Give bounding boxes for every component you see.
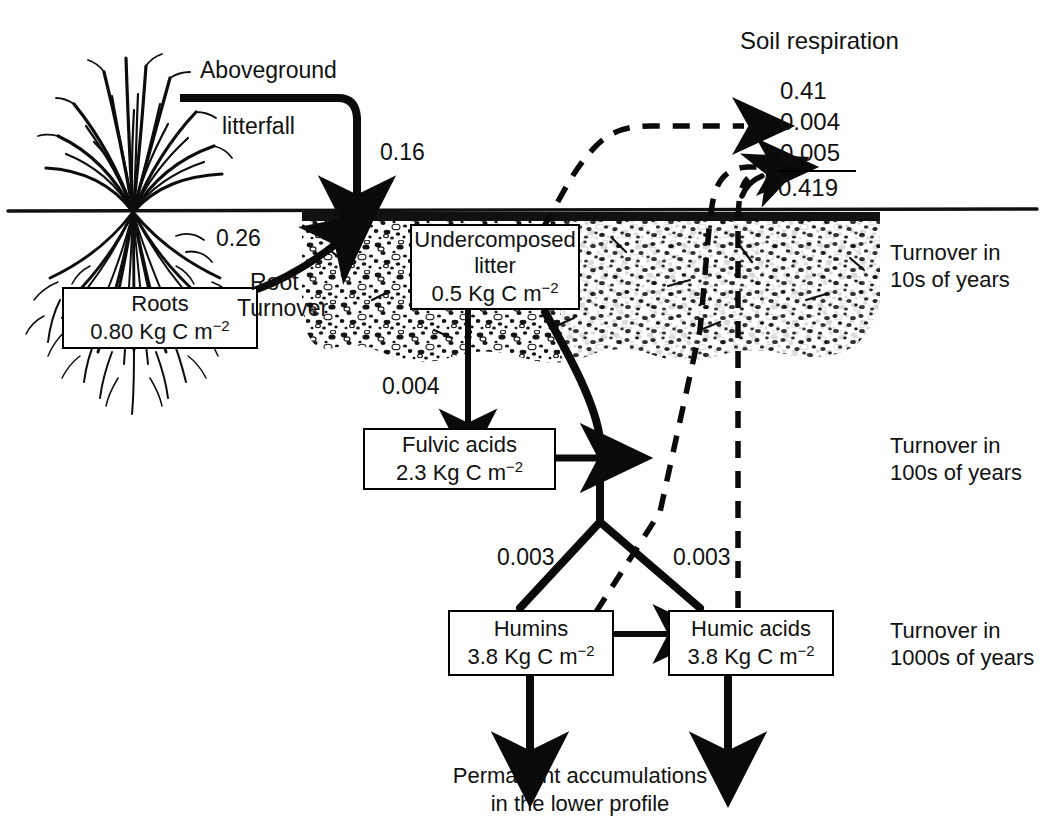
litter-to-fulvic-value: 0.004 [382, 372, 440, 400]
turnover-note-1-line2: 100s of years [890, 460, 1022, 487]
turnover-note-0-line1: Turnover in [890, 240, 1000, 267]
fork-to-humic-acids-value: 0.003 [673, 543, 731, 571]
flow-arrows-layer [0, 0, 1045, 830]
pool-box-humins[interactable]: Humins 3.8 Kg C m−2 [448, 610, 614, 676]
root-turnover-value: 0.26 [216, 224, 261, 252]
respiration-value-2: 0.005 [780, 138, 840, 167]
aboveground-litterfall-label-line2: litterfall [222, 112, 295, 140]
turnover-note-1-line1: Turnover in [890, 433, 1000, 460]
pool-value-fulvic-acids: 2.3 Kg C m−2 [396, 458, 523, 486]
root-turnover-label-line2: Turnover [237, 294, 328, 322]
pool-name-fulvic-acids: Fulvic acids [402, 432, 517, 458]
arrow-respiration-litter [543, 126, 744, 228]
turnover-note-2-line2: 1000s of years [890, 645, 1034, 672]
respiration-sum-rule [778, 170, 856, 172]
turnover-note-2-line1: Turnover in [890, 618, 1000, 645]
pool-box-humic-acids[interactable]: Humic acids 3.8 Kg C m−2 [668, 610, 834, 676]
respiration-total: 0.419 [778, 173, 838, 202]
root-turnover-label-line1: Root [250, 268, 299, 296]
aboveground-litterfall-label-line1: Aboveground [200, 56, 337, 84]
pool-value-humic-acids: 3.8 Kg C m−2 [687, 642, 814, 670]
respiration-value-1: 0.004 [780, 107, 840, 136]
turnover-note-0-line2: 10s of years [890, 267, 1010, 294]
pool-box-undercomposed-litter[interactable]: Undercomposed litter 0.5 Kg C m−2 [410, 224, 580, 310]
pool-name-undercomposed-litter-line1: Undercomposed [414, 227, 575, 253]
pool-name-undercomposed-litter-line2: litter [474, 253, 516, 279]
pool-name-humins: Humins [494, 616, 569, 642]
pool-name-roots: Roots [131, 291, 188, 317]
pool-value-humins: 3.8 Kg C m−2 [467, 642, 594, 670]
fork-to-humins-value: 0.003 [497, 543, 555, 571]
pool-value-roots: 0.80 Kg C m−2 [90, 317, 229, 345]
pool-box-roots[interactable]: Roots 0.80 Kg C m−2 [62, 287, 258, 349]
pool-name-humic-acids: Humic acids [691, 616, 811, 642]
aboveground-litterfall-value: 0.16 [380, 138, 425, 166]
arrow-respiration-humic-acids [738, 178, 748, 608]
soil-carbon-cycle-diagram: Roots 0.80 Kg C m−2 Undercomposed litter… [0, 0, 1045, 830]
respiration-value-0: 0.41 [780, 76, 827, 105]
pool-box-fulvic-acids[interactable]: Fulvic acids 2.3 Kg C m−2 [363, 428, 556, 490]
pool-value-undercomposed-litter: 0.5 Kg C m−2 [431, 279, 558, 307]
